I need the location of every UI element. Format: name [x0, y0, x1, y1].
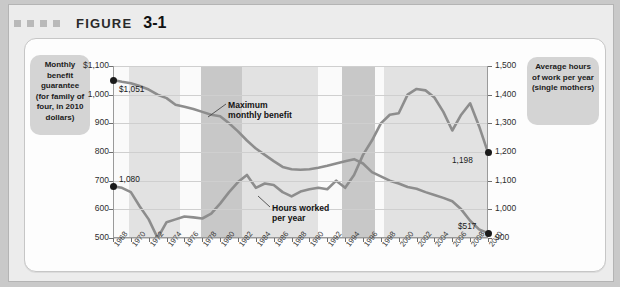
- figure-container: FIGURE 3-1 Monthly benefit guarantee (fo…: [0, 0, 620, 287]
- y-tick-label-right: 1,500: [495, 60, 535, 70]
- figure-header: FIGURE 3-1: [14, 12, 166, 34]
- y-tick-label-right: 1,100: [495, 175, 535, 185]
- decorative-square-icon: [40, 20, 47, 27]
- value-label-hours-end: 1,198: [452, 155, 473, 165]
- y-tick-mark-right: [488, 95, 492, 96]
- y-tick-mark-right: [488, 181, 492, 182]
- annotation-hours-worked: Hours worked per year: [272, 203, 329, 223]
- gridline: [113, 66, 488, 67]
- y-tick-label-left: 600: [65, 203, 109, 213]
- y-tick-label-left: $1,100: [65, 60, 109, 70]
- y-tick-label-left: 1,000: [65, 89, 109, 99]
- endpoint-dot-benefit-start: [110, 77, 117, 84]
- y-tick-mark-right: [488, 66, 492, 67]
- y-tick-label-left: 500: [65, 232, 109, 242]
- gridline: [113, 152, 488, 153]
- y-tick-mark-left: [109, 181, 113, 182]
- annotation-max-benefit: Maximummonthly benefit: [228, 100, 292, 120]
- y-tick-label-right: 1,000: [495, 203, 535, 213]
- value-label-hours-start: 1,080: [119, 174, 140, 184]
- decorative-square-icon: [14, 20, 21, 27]
- figure-number: 3-1: [143, 14, 166, 32]
- y-tick-label-left: 900: [65, 117, 109, 127]
- right-axis-callout: Average hours of work per year (single m…: [527, 57, 599, 125]
- gridline: [113, 181, 488, 182]
- gridline: [113, 95, 488, 96]
- y-tick-mark-left: [109, 209, 113, 210]
- decorative-square-icon: [53, 20, 60, 27]
- y-tick-mark-left: [109, 95, 113, 96]
- endpoint-dot-hours-start: [110, 183, 117, 190]
- y-tick-label-right: 1,200: [495, 146, 535, 156]
- y-tick-mark-left: [109, 66, 113, 67]
- y-tick-label-right: 1,400: [495, 89, 535, 99]
- endpoint-dot-hours-end: [485, 149, 492, 156]
- y-tick-mark-left: [109, 152, 113, 153]
- y-tick-label-right: 1,300: [495, 117, 535, 127]
- y-tick-mark-left: [109, 123, 113, 124]
- value-label-benefit-start: $1,051: [119, 84, 144, 94]
- y-tick-label-left: 800: [65, 146, 109, 156]
- axis-line-left: [113, 66, 114, 238]
- endpoint-dot-benefit-end: [485, 230, 492, 237]
- figure-label: FIGURE: [76, 16, 132, 31]
- y-tick-label-left: 700: [65, 175, 109, 185]
- y-tick-mark-right: [488, 209, 492, 210]
- gridline: [113, 123, 488, 124]
- y-tick-mark-right: [488, 123, 492, 124]
- value-label-benefit-end: $517: [458, 221, 476, 231]
- decorative-square-icon: [27, 20, 34, 27]
